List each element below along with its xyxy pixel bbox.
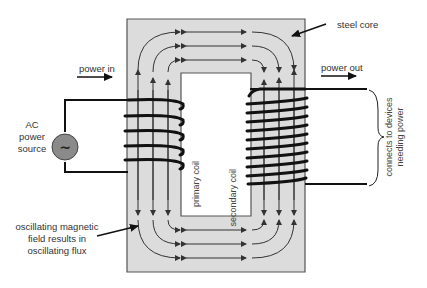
devices-label-1: connects to devices <box>384 97 394 177</box>
power-out-label: power out <box>321 62 363 73</box>
primary-circuit <box>65 100 128 172</box>
ac-power-source: ~ <box>52 134 78 160</box>
secondary-coil-label: secondary coil <box>228 169 238 227</box>
flux-label-3: oscillating flux <box>27 245 86 256</box>
devices-label-2: needing power <box>395 107 405 166</box>
ac-symbol: ~ <box>59 139 71 155</box>
transformer-diagram: ~ steel core power in power out AC power… <box>0 0 427 288</box>
primary-coil-label: primary coil <box>191 161 201 207</box>
devices-brace <box>369 90 384 186</box>
power-in-label: power in <box>79 63 115 74</box>
ac-source-label-3: source <box>18 143 47 154</box>
flux-label-1: oscillating magnetic <box>16 221 99 232</box>
ac-source-label-2: power <box>19 131 45 142</box>
ac-source-label-1: AC <box>25 119 38 130</box>
steel-core-label: steel core <box>337 19 378 30</box>
flux-label-2: field results in <box>28 233 86 244</box>
